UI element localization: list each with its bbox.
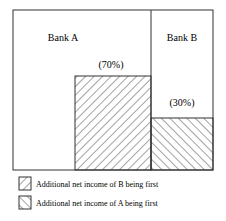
legend-label-a-first: Additional net income of A being first <box>36 199 159 208</box>
bank-income-diagram: Bank A Bank B (70%) (30%) Additional net… <box>0 0 226 221</box>
hatch-region-b-first <box>75 76 151 170</box>
legend-swatch-forward-hatch <box>19 177 31 190</box>
bank-a-share: (70%) <box>99 59 124 71</box>
hatch-region-a-first <box>151 118 213 170</box>
legend-label-b-first: Additional net income of B being first <box>36 180 159 189</box>
bank-b-share: (30%) <box>170 97 195 109</box>
bank-a-label: Bank A <box>48 32 79 43</box>
bank-b-label: Bank B <box>167 32 198 43</box>
legend-swatch-back-hatch <box>19 196 31 209</box>
